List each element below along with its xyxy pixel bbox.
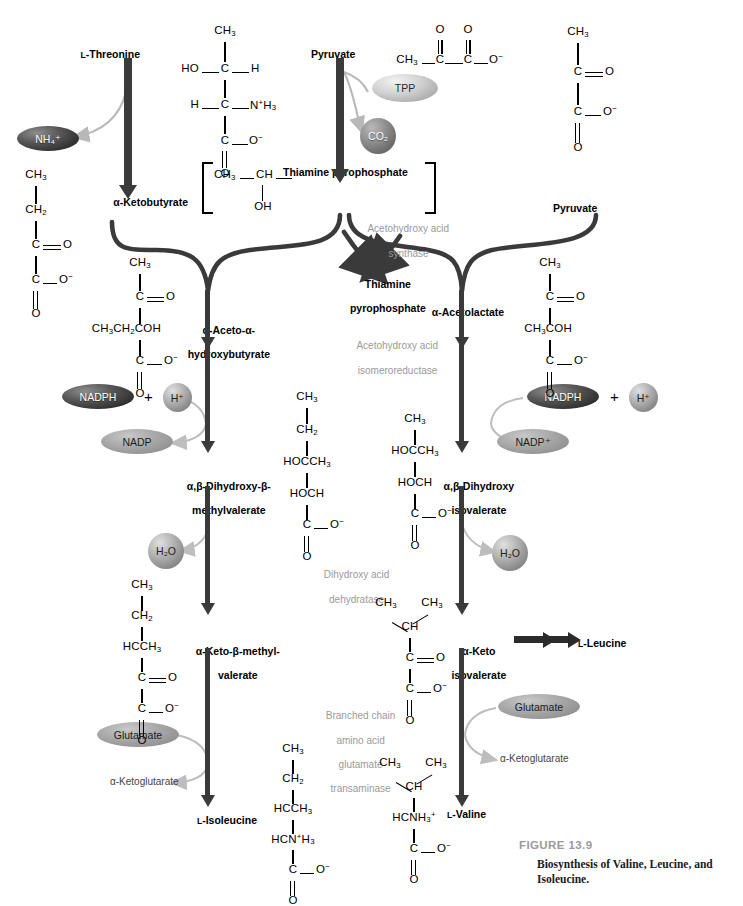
bond [139,274,140,291]
atom-ch3: CH3 [214,24,236,38]
atom-ch2: CH2 [282,772,304,786]
enzyme-acetohydroxy-acid-synthase: Acetohydroxy acid synthase [357,211,449,272]
atom-ch3ch2coh: CH3CH2COH [92,322,161,336]
atom-ch2: CH2 [131,609,153,623]
atom-c: C [138,671,147,683]
atom-c: C [221,98,230,110]
atom-ch3: CH3 [296,390,318,404]
isomero-line1: Acetohydroxy acid [356,340,438,351]
atom-ch2: CH2 [296,423,318,437]
figure-number: FIGURE 13.9 [519,838,734,854]
bond [232,108,249,109]
atom-o-minus: O− [249,133,263,146]
figure-caption-line2: Isoleucine. [537,873,589,885]
structure-alpha-acetolactate: CH3 C O CH3COH C O− O [496,256,626,386]
dhmv-line1: α,β-Dihydroxy-β- [187,480,271,492]
structure-pyruvate-top: O O CH3 C C O− [390,20,510,80]
bond [35,221,36,239]
atom-c: C [221,62,230,74]
atom-oh: OH [254,200,272,212]
bond [417,692,431,693]
atom-hoch: HOCH [398,476,433,488]
bond [474,63,488,64]
bond [43,283,57,284]
atom-ch: CH [405,780,422,792]
water-left-text: H₂O [156,545,176,557]
bond [224,116,225,134]
tpp-product-line1: Thiamine [365,278,411,290]
atom-o: O [435,23,444,35]
atom-c: C [406,651,415,663]
bond [141,658,142,672]
atom-o: O [463,23,472,35]
atom-o: O [31,307,40,319]
atom-o: O [302,550,311,562]
bubble-glutamate-right: Glutamate [498,694,580,719]
atom-c: C [136,290,145,302]
label-thiamine-pyrophosphate-product: Thiamine pyrophosphate [338,266,426,326]
isomero-line2: isomeroreductase [358,365,437,376]
atom-o: O [135,387,144,399]
atom-ch3: CH3 [282,742,304,756]
atom-c: C [138,702,147,714]
bond [421,852,435,853]
atom-nh3-plus: N+H3 [250,98,276,112]
bond [202,72,219,73]
atom-hcnh3-plus: HCN+H3 [271,832,314,846]
atom-o: O [168,671,177,683]
bond [314,528,328,529]
bond [577,83,578,105]
atom-hoch: HOCH [290,487,325,499]
atom-ch3: CH3 [425,756,447,770]
atom-o-minus: O− [330,517,344,530]
atom-c: C [221,134,230,146]
bond [224,42,225,62]
bond [147,364,162,365]
atom-hoccch3: HOCCH3 [391,444,439,458]
bubble-ammonium: NH₄⁺ [17,126,79,151]
nadph-left-text: NADPH [80,391,117,403]
atom-c: C [32,273,41,285]
atom-o-minus: O− [603,104,617,117]
bond [149,712,163,713]
atom-o: O [288,894,297,906]
label-dihydroxy-methylvalerate: α,β-Dihydroxy-β- methylvalerate [175,468,271,528]
atom-o-minus: O− [433,681,447,694]
bond [422,63,435,64]
bond-to-tpp [276,178,292,179]
structure-l-valine: CH3 CH3 CH HCNH3+ C O− O [372,744,492,899]
bond [292,850,293,864]
atom-hcnh3-plus: HCNH3+ [392,810,435,824]
atom-hoccch3: HOCCH3 [283,455,331,469]
atom-ch3: CH3 [396,53,418,67]
arrow-pyruvate-to-hydroxyethyltpp [336,58,344,170]
atom-ch3coh: CH3COH [524,322,572,336]
label-ketoglutarate-right: α-Ketoglutarate [500,753,569,764]
water-right-text: H₂O [500,547,520,559]
atom-o: O [545,387,554,399]
bubble-proton-left: H⁺ [163,383,192,412]
label-pyruvate-left: Pyruvate [311,48,355,60]
atom-h: H [190,98,199,110]
atom-o: O [63,238,72,250]
atom-c: C [406,682,415,694]
double-bond [466,40,471,54]
double-bond [438,40,443,54]
double-bond [149,678,166,683]
atom-ch3: CH3 [25,168,47,182]
atom-ch: CH [401,620,418,632]
double-bond [557,297,574,302]
atom-c: C [303,518,312,530]
atom-o: O [605,65,614,77]
bond [306,441,307,456]
atom-o: O [409,873,418,885]
atom-ch3: CH3 [214,168,236,182]
atom-o: O [576,290,585,302]
bond [300,873,314,874]
atom-c: C [32,238,41,250]
bond [549,274,550,291]
bond [422,517,436,518]
bracket-right [425,162,436,214]
atom-ch3: CH3 [129,256,151,270]
nadp-left-text: NADP [122,436,151,448]
